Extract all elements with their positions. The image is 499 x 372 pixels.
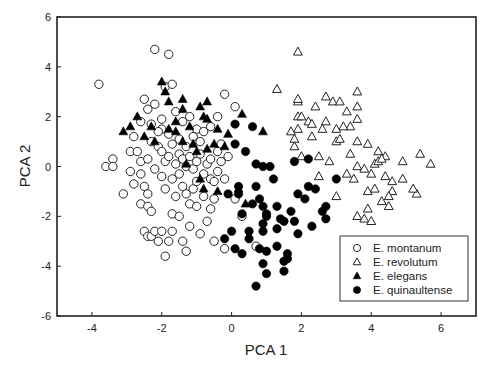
data-point — [280, 267, 288, 275]
data-point — [158, 227, 166, 235]
data-point — [119, 127, 128, 135]
data-point — [294, 47, 303, 55]
data-point — [213, 167, 221, 175]
data-point — [245, 235, 253, 243]
data-point — [185, 112, 193, 120]
data-point — [398, 174, 407, 182]
filled-circle-icon — [353, 286, 360, 293]
data-point — [363, 139, 372, 147]
data-point — [353, 102, 362, 110]
data-point — [259, 202, 267, 210]
data-point — [158, 172, 166, 180]
data-point — [353, 114, 362, 122]
data-point — [199, 184, 208, 192]
data-point — [133, 147, 141, 155]
data-point — [398, 157, 407, 165]
data-point — [231, 103, 239, 111]
data-point — [280, 217, 288, 225]
data-point — [262, 212, 270, 220]
data-point — [374, 147, 383, 155]
data-point — [168, 227, 176, 235]
data-point — [273, 225, 281, 233]
data-point — [321, 117, 330, 125]
legend: E. montanumE. revolutumE. elegansE. quin… — [340, 236, 468, 301]
data-point — [311, 185, 319, 193]
data-point — [308, 222, 316, 230]
data-point — [307, 132, 316, 140]
data-point — [332, 175, 340, 183]
data-point — [203, 97, 212, 105]
data-point — [109, 162, 117, 170]
data-point — [353, 162, 362, 170]
data-point — [252, 182, 260, 190]
data-point — [409, 184, 418, 192]
data-point — [151, 100, 159, 108]
y-tick-label: 6 — [45, 11, 51, 23]
data-point — [172, 192, 180, 200]
data-point — [165, 152, 173, 160]
data-point — [252, 282, 260, 290]
data-point — [196, 137, 204, 145]
data-point — [178, 94, 187, 102]
x-tick-label: 0 — [229, 322, 235, 334]
data-point — [158, 115, 166, 123]
data-point — [164, 97, 173, 105]
x-tick-label: 6 — [438, 322, 444, 334]
data-point — [294, 230, 302, 238]
data-point — [126, 167, 134, 175]
data-point — [294, 94, 303, 102]
legend-label: E. elegans — [373, 270, 428, 282]
data-point — [137, 170, 145, 178]
data-point — [248, 200, 256, 208]
data-point — [381, 172, 390, 180]
data-point — [314, 152, 323, 160]
y-tick-label: -4 — [41, 260, 51, 272]
data-point — [266, 162, 274, 170]
data-point — [196, 102, 205, 110]
data-point — [206, 122, 214, 130]
data-point — [290, 217, 298, 225]
data-point — [238, 210, 246, 218]
data-point — [318, 124, 327, 132]
data-point — [314, 172, 323, 180]
data-point — [370, 184, 379, 192]
data-point — [238, 109, 247, 117]
data-point — [353, 212, 362, 220]
data-point — [151, 165, 159, 173]
data-point — [161, 252, 169, 260]
data-point — [290, 142, 299, 150]
data-point — [210, 177, 218, 185]
x-tick-label: -4 — [87, 322, 97, 334]
data-point — [255, 195, 263, 203]
data-point — [342, 169, 351, 177]
data-point — [234, 182, 242, 190]
data-point — [213, 112, 221, 120]
data-point — [273, 242, 281, 250]
data-point — [335, 97, 344, 105]
data-point — [294, 124, 303, 132]
legend-label: E. montanum — [373, 242, 441, 254]
data-point — [178, 104, 187, 112]
data-point — [224, 129, 233, 137]
data-point — [203, 217, 211, 225]
data-point — [322, 215, 330, 223]
data-point — [185, 222, 193, 230]
data-point — [301, 195, 309, 203]
data-point — [220, 175, 228, 183]
data-point — [213, 187, 222, 195]
y-tick-label: -2 — [41, 210, 51, 222]
data-point — [210, 237, 218, 245]
data-point — [353, 137, 362, 145]
data-point — [321, 92, 330, 100]
data-point — [269, 175, 277, 183]
open-circle-icon — [353, 244, 360, 251]
data-point — [203, 144, 212, 152]
data-point — [322, 202, 330, 210]
data-point — [339, 122, 348, 130]
legend-label: E. quinaultense — [373, 284, 452, 296]
data-point — [165, 50, 173, 58]
data-point — [224, 190, 232, 198]
data-point — [199, 192, 207, 200]
data-point — [119, 190, 127, 198]
data-point — [130, 180, 138, 188]
